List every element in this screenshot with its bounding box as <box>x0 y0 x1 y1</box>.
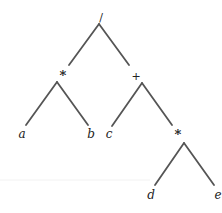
edge-root-to-mul1 <box>69 24 99 65</box>
edge-mul2-to-d <box>155 143 184 185</box>
leaf-a: a <box>18 128 25 140</box>
edge-mul2-to-e <box>184 143 214 185</box>
expression-tree-diagram <box>0 0 222 213</box>
node-multiply-left: * <box>60 69 67 82</box>
edge-mul1-to-b <box>57 82 88 125</box>
leaf-d: d <box>147 189 155 201</box>
node-plus: + <box>131 71 140 82</box>
tree-edges <box>26 24 214 185</box>
edge-root-to-plus <box>99 24 129 65</box>
edge-mul1-to-a <box>26 82 57 125</box>
edge-plus-to-c <box>112 83 142 126</box>
leaf-c: c <box>106 128 113 140</box>
node-root-divide: / <box>99 12 103 23</box>
node-multiply-right: * <box>175 128 182 141</box>
edge-plus-to-mul2 <box>142 83 172 125</box>
leaf-e: e <box>214 189 221 201</box>
leaf-b: b <box>87 128 95 140</box>
